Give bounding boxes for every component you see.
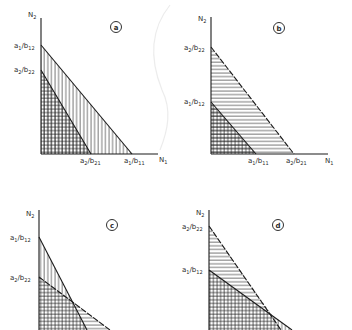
paper-crease [154,5,170,150]
x-axis-label: N1 [325,157,333,166]
panel-badge-label: c [110,222,114,230]
y-axis-label: N2 [28,11,36,20]
x-axis-label: N1 [159,156,167,165]
y-tick-a1-b12: a1/b12 [10,234,31,243]
competition-isocline-figure: N2 N1 a1/b12 a2/b22 a2/b21 a1/b11 a N2 N… [0,0,352,330]
panel-badge-label: d [275,222,280,230]
panel-c: N2 a1/b12 a2/b22 c [10,210,118,330]
panel-b: N2 N1 a2/b22 a1/b12 a1/b11 a2/b21 b [184,15,333,166]
panel-badge-label: a [114,24,119,32]
panel-a: N2 N1 a1/b12 a2/b22 a2/b21 a1/b11 a [14,11,167,166]
y-tick-a1-b12: a1/b12 [14,42,35,51]
y-tick-a1-b12: a1/b12 [182,266,203,275]
x-tick-a1-b11: a1/b11 [248,157,269,166]
x-tick-a2-b21: a2/b21 [80,157,101,166]
x-tick-a2-b21: a2/b21 [286,157,307,166]
panel-badge-label: b [276,25,281,33]
panel-d: N2 a2/b22 a1/b12 d [182,209,292,330]
y-tick-a2-b22: a2/b22 [10,274,31,283]
y-axis-label: N2 [196,209,204,218]
y-tick-a2-b22: a2/b22 [184,44,205,53]
y-axis-label: N2 [26,210,34,219]
y-tick-a2-b22: a2/b22 [14,66,35,75]
y-axis-label: N2 [198,15,206,24]
y-tick-a1-b12: a1/b12 [184,98,205,107]
y-tick-a2-b22: a2/b22 [182,223,203,232]
x-tick-a1-b11: a1/b11 [124,157,145,166]
